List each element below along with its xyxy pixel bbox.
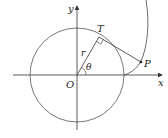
radius-label: r (81, 48, 86, 58)
point-p (140, 61, 143, 64)
tangent-point-label: T (97, 23, 105, 34)
involute-diagram: y x O T P r θ (0, 0, 168, 138)
origin-label: O (66, 79, 74, 90)
angle-label: θ (86, 62, 92, 72)
tangent-line (99, 37, 141, 62)
x-axis-label: x (158, 77, 164, 88)
y-axis-label: y (67, 3, 74, 14)
point-p-label: P (143, 58, 151, 69)
